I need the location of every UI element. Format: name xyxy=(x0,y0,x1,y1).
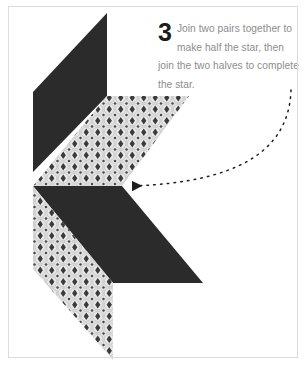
caption-text: Join two pairs together to make half the… xyxy=(158,23,299,90)
page-root: 3 Join two pairs together to make half t… xyxy=(0,0,307,369)
caption-block: 3 Join two pairs together to make half t… xyxy=(158,18,300,92)
step-number: 3 xyxy=(158,19,172,45)
